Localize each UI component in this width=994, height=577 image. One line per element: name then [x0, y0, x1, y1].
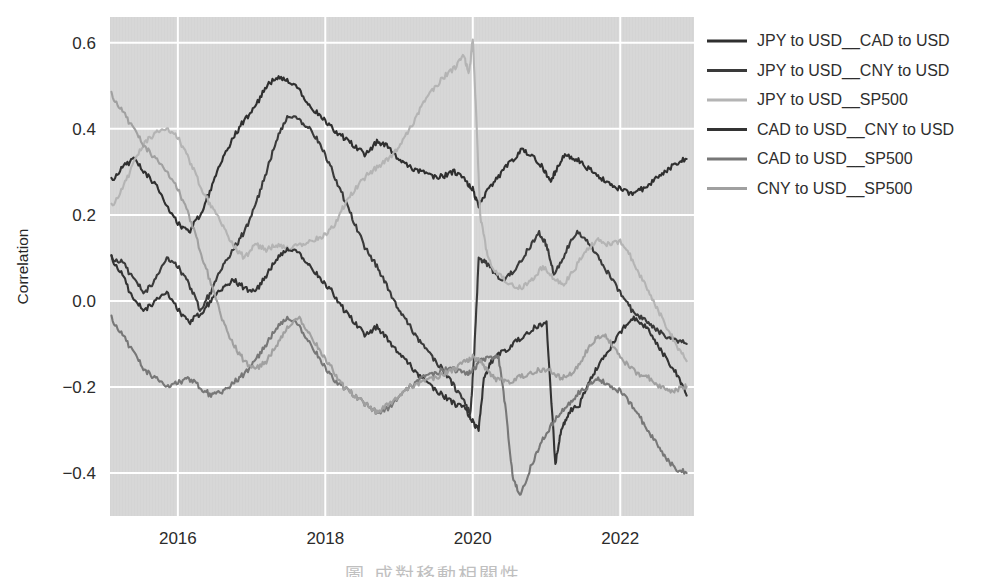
legend-label-3: CAD to USD__CNY to USD [757, 121, 954, 139]
legend-label-1: JPY to USD__CNY to USD [757, 62, 949, 80]
x-axis-tick-label: 2022 [601, 529, 639, 548]
legend-label-2: JPY to USD__SP500 [757, 91, 908, 109]
legend-label-4: CAD to USD__SP500 [757, 150, 913, 168]
y-axis-tick-label: −0.2 [62, 378, 96, 397]
x-axis-tick-label: 2018 [306, 529, 344, 548]
y-axis-tick-label: 0.4 [72, 120, 96, 139]
y-axis-title: Correlation [14, 229, 31, 305]
background-texture [110, 17, 693, 516]
y-axis-tick-label: 0.0 [72, 292, 96, 311]
y-axis-tick-label: 0.2 [72, 206, 96, 225]
chart-figure: 0.60.40.20.0−0.2−0.42016201820202022Corr… [0, 0, 994, 577]
legend-label-5: CNY to USD__SP500 [757, 180, 912, 198]
x-axis-tick-label: 2020 [454, 529, 492, 548]
correlation-line-chart: 0.60.40.20.0−0.2−0.42016201820202022Corr… [0, 0, 994, 577]
legend-label-0: JPY to USD__CAD to USD [757, 32, 950, 50]
y-axis-tick-label: 0.6 [72, 34, 96, 53]
cut-off-caption: 圖 成對移動相關性 [345, 560, 675, 577]
y-axis-tick-label: −0.4 [62, 464, 96, 483]
x-axis-tick-label: 2016 [159, 529, 197, 548]
